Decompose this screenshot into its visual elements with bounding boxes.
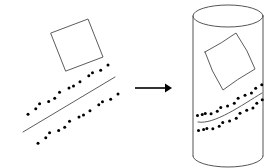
transform-arrow-group [135, 84, 172, 93]
dot [244, 94, 247, 97]
dot [216, 110, 219, 113]
dot [233, 102, 236, 105]
dot [78, 80, 81, 83]
dot [260, 83, 263, 86]
dot [91, 71, 94, 74]
dot [228, 120, 231, 123]
dot [201, 113, 204, 116]
flat-upper-dot-row [27, 64, 110, 116]
dot [97, 103, 100, 106]
arrow-head-icon [165, 84, 172, 93]
dot [235, 117, 238, 120]
dot [109, 98, 112, 101]
dot [88, 109, 91, 112]
cylinder-upper-dot-row [196, 83, 263, 117]
dot [27, 113, 30, 116]
dot [221, 121, 224, 124]
dot [245, 109, 248, 112]
dot [261, 98, 264, 101]
cylinder-bottom-arc [193, 156, 263, 167]
dot [38, 102, 41, 105]
dot [44, 136, 47, 139]
dot [218, 125, 221, 128]
dot [204, 112, 207, 115]
dot [101, 100, 104, 103]
dot [47, 100, 50, 103]
dot [63, 126, 66, 129]
dot [82, 114, 85, 117]
dot [57, 129, 60, 132]
dot [210, 112, 213, 115]
flat-pattern-group [23, 19, 120, 145]
warped-square-outline [205, 33, 255, 90]
dot [239, 112, 242, 115]
dot [196, 114, 199, 117]
dot [48, 131, 51, 134]
cylinder-top-ellipse [193, 5, 263, 27]
dot [211, 127, 214, 130]
dot [219, 106, 222, 109]
dot [202, 128, 205, 131]
figure-root: Planar pattern wrapped onto a cylinder A… [0, 0, 277, 168]
dot [87, 74, 90, 77]
dot [254, 87, 257, 90]
dot [78, 116, 81, 119]
flat-diagonal-line [23, 77, 115, 132]
dot [237, 97, 240, 100]
dot [250, 92, 253, 95]
cylinder-lower-dot-row [197, 98, 264, 132]
dot [37, 142, 40, 145]
cylinder-group [193, 5, 264, 167]
dot [255, 102, 258, 105]
dot [117, 93, 120, 96]
flat-square-outline [51, 19, 103, 71]
dot [107, 64, 110, 67]
dot [99, 69, 102, 72]
diagram-canvas [0, 0, 277, 168]
dot [205, 127, 208, 130]
dot [58, 91, 61, 94]
dot [226, 105, 229, 108]
dot [72, 85, 75, 88]
dot [68, 120, 71, 123]
dot [34, 107, 37, 110]
dot [197, 129, 200, 132]
dot [251, 107, 254, 110]
dot [53, 97, 56, 100]
dot [68, 87, 71, 90]
